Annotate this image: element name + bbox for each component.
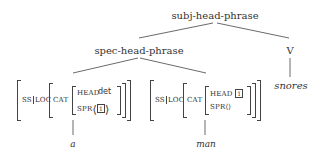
path-ss-loc: SSLOC <box>22 96 51 104</box>
spec-head-node-label: spec-head-phrase <box>94 46 183 56</box>
spr-feature: SPR⟨⟩ <box>210 103 231 111</box>
edge-spec-left <box>73 58 138 73</box>
inner-left-bracket-open <box>72 86 76 115</box>
tag-1-box: 1 <box>235 89 243 98</box>
inner-left-bracket-close <box>117 86 121 115</box>
edge-root-verb <box>217 23 289 38</box>
head-label: HEAD 1 <box>210 89 243 98</box>
path-ss-loc: SSLOC <box>155 96 184 104</box>
left-word: a <box>70 140 75 149</box>
right-word: man <box>196 140 216 149</box>
outer-right-bracket-open <box>150 80 154 121</box>
outer-left-bracket-close <box>127 80 131 121</box>
spr-feature: SPR⟨1⟩ <box>77 103 109 116</box>
edge-spec-right <box>140 58 206 73</box>
outer-right-bracket-close <box>257 80 261 121</box>
mid-right-bracket-close <box>252 83 256 118</box>
verb-word: snores <box>274 81 307 91</box>
edge-root-spec <box>139 23 213 38</box>
head-value: det <box>98 87 111 96</box>
tag-1-box: 1 <box>97 104 105 113</box>
cat-label: CAT <box>187 96 202 104</box>
verb-category-label: V <box>286 46 293 56</box>
tree-edges <box>0 0 319 159</box>
inner-right-bracket-open <box>205 86 209 115</box>
cat-label: CAT <box>53 96 68 104</box>
outer-left-bracket-open <box>17 80 21 121</box>
root-node-label: subj-head-phrase <box>171 11 258 21</box>
head-label: HEAD <box>77 89 100 97</box>
inner-right-bracket-close <box>247 86 251 115</box>
mid-left-bracket-close <box>122 83 126 118</box>
